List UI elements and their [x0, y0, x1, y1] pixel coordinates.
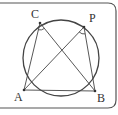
segment-cb: [40, 23, 95, 91]
segment-ab: [24, 90, 95, 91]
segment-ap: [24, 27, 84, 90]
point-c: [39, 22, 42, 25]
segment-pb: [84, 27, 95, 91]
angle-mark-c: [38, 28, 44, 30]
angle-mark-p: [79, 32, 85, 34]
point-a: [23, 89, 26, 92]
circle: [23, 20, 99, 96]
label-p: P: [89, 11, 96, 25]
label-b: B: [97, 91, 105, 105]
label-a: A: [14, 90, 23, 104]
diagram-canvas: C P A B: [0, 0, 118, 115]
point-b: [94, 90, 97, 93]
label-c: C: [31, 7, 39, 21]
point-p: [83, 26, 86, 29]
segments: [24, 23, 95, 91]
